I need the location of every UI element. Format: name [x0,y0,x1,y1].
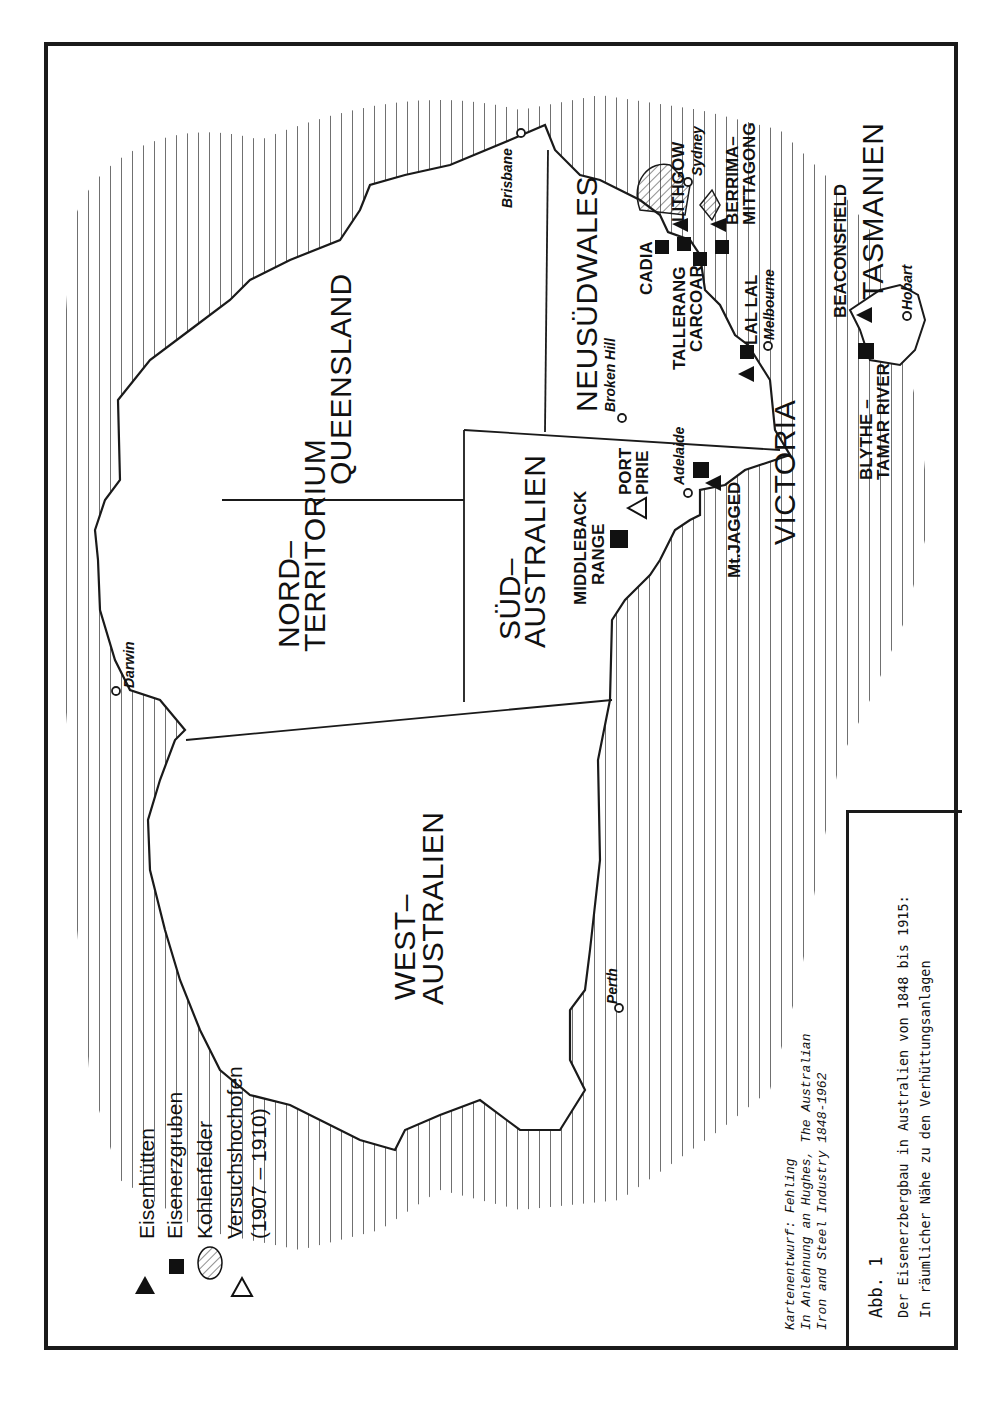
city-label-melbourne: Melbourne [762,269,776,340]
legend-label-kohlenfelder: Kohlenfelder [194,1121,216,1239]
ore-mine-icon-berrima [715,240,729,254]
city-label-hobart: Hobart [900,265,914,310]
site-label-port-pirie-1: PORT [617,448,634,495]
site-label-cadia: CADIA [638,241,655,295]
legend-hatched-ellipse-icon [198,1247,222,1279]
ore-mine-icon-tallerang [677,237,691,251]
figure-label: Abb. 1 [866,1257,886,1318]
city-label-brisbane: Brisbane [500,148,514,208]
legend-filled-triangle-icon [135,1276,155,1294]
city-marker-brisbane [517,129,525,137]
city-marker-adelaide [684,489,692,497]
site-label-lal-lal: LAL LAL [743,274,760,345]
legend-sublabel-versuchshochofen: (1907 – 1910) [248,1108,270,1239]
source-line-1: Kartenentwurf: Fehling [783,1158,798,1330]
city-label-perth: Perth [605,968,619,1004]
region-label-tasmanien: TASMANIEN [858,123,888,300]
site-label-beaconsfield: BEACONSFIELD [832,184,849,318]
site-label-berrima-1: BERRIMA– [724,136,741,225]
site-label-blythe-1: BLYTHE – [858,399,875,480]
source-line-3: Iron and Steel Industry 1848-1962 [815,1073,830,1330]
city-marker-hobart [903,312,911,320]
site-label-lithgow: LITHGOW [670,142,687,222]
ore-mine-icon-blythe [858,343,874,359]
site-label-port-pirie-2: PIRIE [634,451,651,495]
region-label-queensland: QUEENSLAND [326,273,356,485]
region-label-sued-2: AUSTRALIEN [520,455,550,648]
ore-mine-icon-lallal [740,345,754,359]
city-marker-perth [615,1004,623,1012]
ore-mine-icon-cadia [655,240,669,254]
legend-label-eisenerzgruben: Eisenerzgruben [164,1092,186,1239]
figure-title-line-1: Der Eisenerzbergbau in Australien von 18… [896,895,911,1318]
site-label-carcoar: CARCOAR [688,265,705,352]
ore-mine-icon-carcoar [693,252,707,266]
site-label-mt-jagged: Mt.JAGGED [726,482,743,578]
site-label-middleback-2: RANGE [590,524,607,585]
legend-label-eisenhuetten: Eisenhütten [136,1128,158,1239]
legend-open-triangle-icon [232,1278,252,1296]
city-label-darwin: Darwin [122,641,136,688]
ore-mine-icon-mtjagged [693,462,709,478]
city-label-broken-hill: Broken Hill [603,338,617,412]
city-label-sydney: Sydney [690,126,704,176]
site-label-blythe-2: TAMAR RIVER [875,363,892,480]
legend-filled-square-icon [169,1259,184,1274]
region-label-nsw: NEUSÜDWALES [572,176,602,412]
site-label-tallerang: TALLERANG [671,266,688,370]
site-label-berrima-2: MITTAGONG [741,122,758,225]
city-marker-broken-hill [618,414,626,422]
city-marker-darwin [112,687,120,695]
source-line-2: In Anlehnung an Hughes, The Australian [799,1034,814,1330]
region-label-victoria: VICTORIA [770,400,800,545]
legend-label-versuchshochofen: Versuchshochofen [224,1066,246,1239]
region-label-west-2: AUSTRALIEN [418,812,448,1005]
ore-mine-icon-middleback [610,530,628,548]
city-marker-melbourne [764,342,772,350]
figure-title-line-2: In räumlicher Nähe zu den Verhüttungsanl… [918,960,933,1318]
city-label-adelaide: Adelaide [672,427,686,485]
site-label-middleback-1: MIDDLEBACK [572,491,589,605]
